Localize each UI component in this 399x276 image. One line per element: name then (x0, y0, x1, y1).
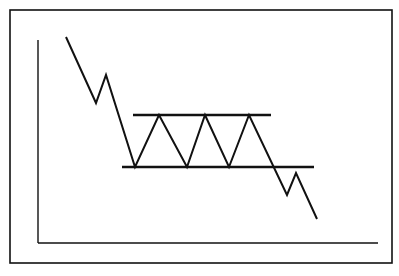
rectangle-pattern-diagram (0, 0, 399, 276)
price-path (66, 37, 317, 219)
diagram-frame (10, 10, 392, 263)
